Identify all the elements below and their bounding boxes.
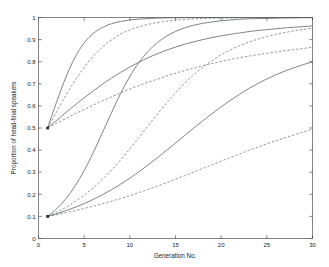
- x-tick-labels: 051015202530: [37, 242, 317, 248]
- y-tick-label: 0.9: [27, 37, 36, 43]
- start-markers: [46, 127, 49, 218]
- line-chart: 051015202530 00.10.20.30.40.50.60.70.80.…: [0, 0, 329, 267]
- x-axis-title: Generation No.: [154, 252, 197, 259]
- data-curve: [48, 18, 313, 129]
- y-tick-label: 0.2: [27, 192, 36, 198]
- series-start-marker: [46, 127, 49, 130]
- chart-figure: 051015202530 00.10.20.30.40.50.60.70.80.…: [0, 0, 329, 267]
- y-tick-labels: 00.10.20.30.40.50.60.70.80.91: [27, 15, 36, 242]
- data-curves: [48, 18, 313, 217]
- x-tick-label: 10: [126, 242, 133, 248]
- x-tick-label: 5: [82, 242, 86, 248]
- data-curve: [48, 28, 313, 216]
- x-tick-label: 20: [218, 242, 225, 248]
- x-tick-label: 15: [172, 242, 179, 248]
- y-tick-label: 0.7: [27, 81, 36, 87]
- y-tick-label: 0.5: [27, 125, 36, 131]
- y-tick-label: 0.6: [27, 103, 36, 109]
- y-axis-title: Proportion of head-final speakers: [10, 82, 18, 175]
- y-tick-label: 0.1: [27, 214, 36, 220]
- y-tick-label: 0.8: [27, 59, 36, 65]
- data-curve: [48, 129, 313, 216]
- y-tick-label: 0.4: [27, 147, 36, 153]
- data-curve: [48, 18, 313, 217]
- x-tick-label: 25: [263, 242, 270, 248]
- y-tick-label: 0.3: [27, 169, 36, 175]
- x-tick-label: 30: [309, 242, 316, 248]
- y-tick-label: 1: [32, 15, 36, 21]
- series-start-marker: [46, 215, 49, 218]
- data-curve: [48, 18, 313, 128]
- x-tick-label: 0: [37, 242, 41, 248]
- data-curve: [48, 26, 313, 128]
- data-curve: [48, 62, 313, 216]
- y-tick-label: 0: [32, 236, 36, 242]
